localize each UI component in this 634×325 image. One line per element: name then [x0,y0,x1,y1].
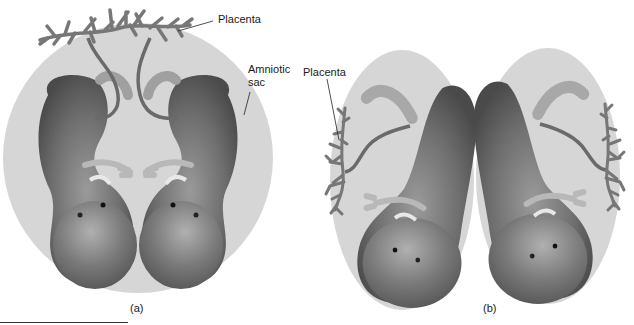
panel-a [3,10,273,293]
label-placenta-a: Placenta [218,13,261,26]
caption-a: (a) [130,302,143,314]
panel-b [326,48,624,310]
label-amniotic-sac-line1: Amniotic [248,63,290,76]
twins-diagram [0,0,634,325]
caption-b: (b) [483,302,496,314]
label-amniotic-sac-line2: sac [248,76,265,89]
label-placenta-b: Placenta [303,66,346,79]
footnote-rule [0,322,128,323]
